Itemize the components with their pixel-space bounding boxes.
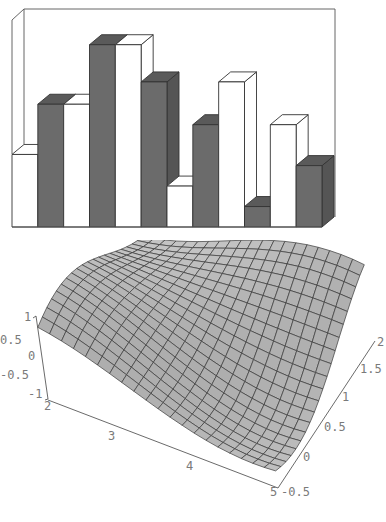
x-tick-label: 3	[108, 429, 115, 443]
y-tick-label: 1.5	[360, 362, 382, 376]
y-tick-label: 2	[377, 335, 384, 349]
bar	[296, 156, 334, 227]
z-tick-label: -0.5	[0, 368, 29, 382]
y-tick-label: -0.5	[281, 485, 310, 499]
x-tick-label: 4	[186, 459, 193, 473]
surface-mesh	[38, 240, 365, 471]
bars-group	[12, 35, 334, 227]
x-tick-label: 5	[270, 485, 277, 499]
z-tick-label: 0.5	[0, 333, 22, 347]
y-tick-label: 0.5	[324, 420, 346, 434]
z-tick-label: -1	[28, 387, 42, 401]
z-tick-label: 0	[28, 349, 35, 363]
x-tick-label: 2	[44, 399, 51, 413]
bar-chart-3d	[0, 0, 386, 240]
y-tick-label: 0	[303, 450, 310, 464]
z-axis-labels: 1 0.5 0 -0.5 -1	[0, 310, 42, 401]
z-tick-label: 1	[24, 310, 31, 324]
y-tick-label: 1	[342, 390, 349, 404]
surface-plot-3d: 1 0.5 0 -0.5 -1 2 3 4 5 -0.5 0 0.5 1 1.5…	[0, 240, 386, 522]
